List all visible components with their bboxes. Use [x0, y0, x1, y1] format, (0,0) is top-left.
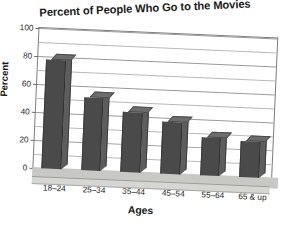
bar [160, 116, 182, 175]
x-axis-tick-label: 18–24 [43, 183, 66, 193]
bar [41, 53, 66, 169]
y-axis-tick-label: 100 [9, 22, 33, 33]
x-axis-tick-label: 35–44 [122, 187, 145, 197]
bar-top-face [128, 106, 153, 113]
bar-top-face [246, 135, 271, 142]
y-axis-tick-label: 60 [7, 78, 31, 89]
x-axis-tick-label: 45–54 [162, 189, 185, 199]
bar [121, 106, 144, 173]
bar-front-face [121, 112, 143, 173]
y-axis-tick-label: 40 [6, 106, 30, 117]
bar-top-face [89, 92, 114, 99]
x-axis-title: Ages [0, 198, 286, 222]
bar-front-face [160, 122, 182, 175]
bar [239, 135, 261, 178]
chart-plot-region: Percent 020406080100 18–2425–3435–4445–5… [0, 0, 290, 234]
bar-front-face [200, 137, 221, 176]
y-axis-tick-label: 80 [8, 50, 32, 61]
bar-top-face [167, 116, 192, 123]
bars-group [32, 27, 276, 178]
bar-top-face [206, 132, 231, 139]
bar-front-face [239, 141, 260, 178]
bar [81, 91, 104, 171]
bar-chart-figure: Percent of People Who Go to the Movies P… [0, 0, 290, 234]
y-axis-tick-label: 0 [3, 161, 27, 172]
x-axis-tick-label: 25–34 [82, 185, 105, 195]
bar-front-face [81, 97, 104, 171]
y-axis-tick-label: 20 [4, 133, 28, 144]
bar-top-face [51, 54, 76, 61]
x-axis-tick-label: 65 & up [238, 192, 267, 202]
bar [200, 131, 222, 176]
x-axis-tick-label: 55–64 [201, 190, 224, 200]
